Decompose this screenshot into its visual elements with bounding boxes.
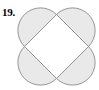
figure-container: 19.: [0, 0, 99, 90]
quatrefoil-figure: [0, 0, 99, 90]
